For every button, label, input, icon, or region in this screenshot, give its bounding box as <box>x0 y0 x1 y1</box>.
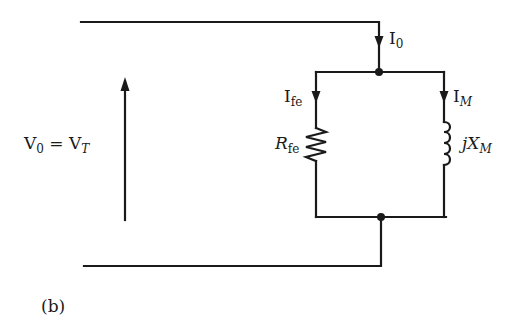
xm-label: jXM <box>462 135 492 155</box>
ife-subscript: fe <box>291 95 303 109</box>
bottom-wire <box>84 217 381 266</box>
bottom-junction-dot <box>377 213 385 221</box>
ife-arrow-icon <box>312 91 321 103</box>
i0-subscript: 0 <box>396 37 404 51</box>
i0-label: I0 <box>389 30 403 50</box>
v0-subscript: 0 <box>36 142 44 156</box>
rfe-label: Rfe <box>275 135 299 155</box>
vt-symbol: V <box>69 133 81 153</box>
im-subscript: M <box>460 95 472 109</box>
jxm-subscript: M <box>479 142 491 156</box>
resistor-symbol <box>306 128 326 161</box>
figure-caption: (b) <box>41 298 65 315</box>
top-junction-dot <box>375 68 383 76</box>
rfe-subscript: fe <box>288 142 300 156</box>
im-label: IM <box>453 88 472 108</box>
rfe-symbol: R <box>275 133 288 153</box>
vt-subscript: T <box>81 142 89 156</box>
equals-sign: = <box>44 133 69 153</box>
inductor-symbol <box>444 122 450 165</box>
ife-label: Ife <box>284 88 302 108</box>
voltage-label: V0 = VT <box>24 135 89 155</box>
voltage-arrow-head-icon <box>121 77 130 91</box>
i0-arrow-icon <box>375 36 384 48</box>
v0-symbol: V <box>24 133 36 153</box>
im-symbol: I <box>453 86 460 106</box>
circuit-diagram <box>0 0 530 333</box>
top-wire <box>81 22 379 72</box>
jxm-symbol: jX <box>462 133 479 153</box>
ife-symbol: I <box>284 86 291 106</box>
im-arrow-icon <box>440 91 449 103</box>
i0-symbol: I <box>389 28 396 48</box>
